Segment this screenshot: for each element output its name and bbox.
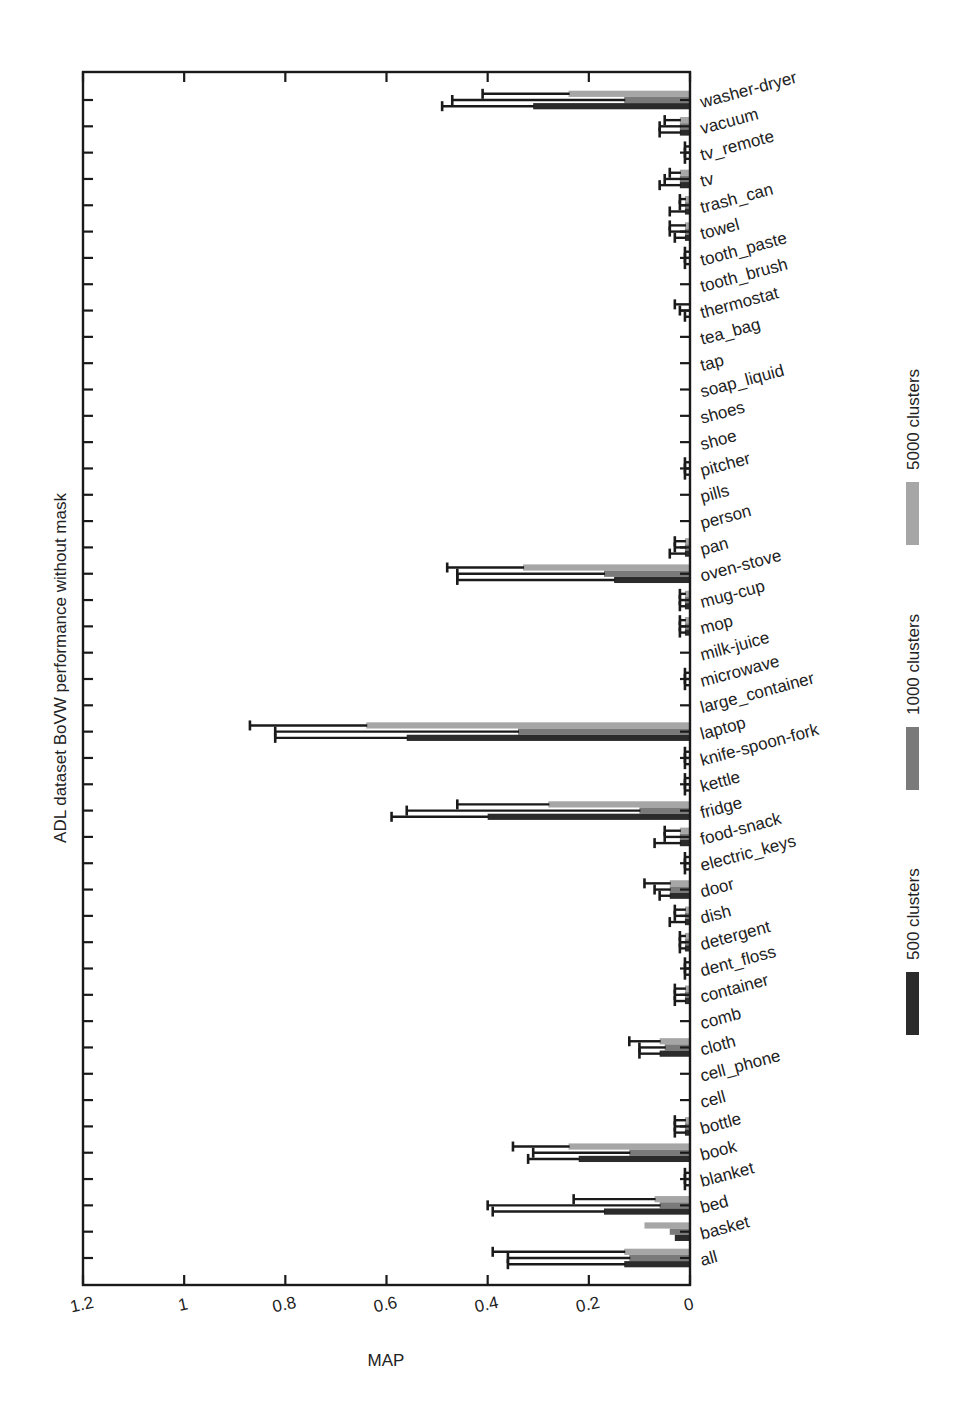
category-label: tv	[698, 169, 716, 191]
x-tick-label: 1.2	[68, 1293, 95, 1316]
x-ticks: 1.210.80.60.40.20	[68, 72, 695, 1316]
bar	[680, 170, 690, 176]
y-ticks	[83, 100, 690, 1258]
legend-swatch	[906, 972, 919, 1035]
bar	[680, 840, 690, 846]
bar	[680, 182, 690, 188]
legend-label: 5000 clusters	[904, 369, 923, 470]
x-tick-label: 0.8	[271, 1293, 298, 1316]
x-tick-label: 0.4	[473, 1293, 500, 1316]
bar	[660, 1051, 690, 1057]
bar	[670, 880, 690, 886]
category-label: towel	[698, 215, 741, 244]
bar	[548, 801, 690, 807]
plot-frame	[83, 72, 690, 1285]
legend-swatch	[906, 727, 919, 790]
y-axis-title: ADL dataset BoVW performance without mas…	[51, 493, 70, 843]
bar	[523, 564, 690, 570]
category-label: book	[698, 1137, 739, 1165]
bar	[604, 571, 690, 577]
category-label: all	[698, 1247, 719, 1270]
bar	[680, 117, 690, 123]
bar	[624, 1261, 690, 1267]
x-tick-label: 0	[682, 1294, 695, 1315]
bar	[366, 722, 690, 728]
category-label: tap	[698, 351, 726, 375]
category-labels: washer-dryervacuumtv_remotetvtrash_canto…	[697, 68, 821, 1270]
bar	[655, 1196, 690, 1202]
category-label: mop	[698, 611, 735, 638]
category-label: bottle	[698, 1109, 743, 1138]
bar	[488, 814, 690, 820]
category-label: shoe	[698, 426, 739, 454]
legend-swatch	[906, 482, 919, 545]
category-label: cell	[698, 1087, 728, 1112]
x-tick-label: 0.6	[372, 1293, 399, 1316]
category-label: kettle	[698, 767, 742, 796]
bar	[660, 1038, 690, 1044]
category-label: laptop	[698, 713, 748, 743]
category-label: comb	[698, 1004, 743, 1033]
bar	[624, 1249, 690, 1255]
bar	[569, 1143, 690, 1149]
legend-label: 1000 clusters	[904, 614, 923, 715]
bar	[533, 103, 690, 109]
category-label: person	[698, 501, 753, 533]
bar	[670, 893, 690, 899]
x-axis-title: MAP	[368, 1351, 405, 1370]
category-label: cloth	[698, 1032, 738, 1060]
bar	[579, 1156, 690, 1162]
axes-box	[83, 72, 690, 1285]
bar-chart: 1.210.80.60.40.20 washer-dryervacuumtv_r…	[0, 0, 962, 1411]
category-label: basket	[698, 1212, 752, 1243]
category-label: bed	[698, 1192, 730, 1218]
bar	[569, 91, 690, 97]
bar	[604, 1208, 690, 1214]
bar	[518, 729, 690, 735]
category-label: fridge	[698, 793, 744, 822]
category-label: door	[698, 874, 736, 901]
bar	[407, 735, 690, 741]
x-tick-label: 0.2	[574, 1293, 601, 1316]
bar	[680, 828, 690, 834]
bar	[644, 1222, 690, 1228]
category-label: pan	[698, 534, 730, 560]
category-label: shoes	[698, 398, 747, 428]
category-label: pills	[698, 481, 731, 507]
bar	[614, 577, 690, 583]
bar	[680, 129, 690, 135]
category-label: dish	[698, 901, 733, 927]
x-tick-label: 1	[176, 1294, 189, 1315]
bar	[675, 1235, 690, 1241]
category-label: pitcher	[698, 449, 753, 481]
legend: 5000 clusters1000 clusters500 clusters	[904, 369, 923, 1035]
bars-layer	[250, 89, 691, 1269]
legend-label: 500 clusters	[904, 868, 923, 960]
